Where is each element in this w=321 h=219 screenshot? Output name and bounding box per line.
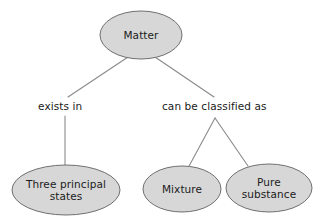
connector-matter-to-exists-in [68, 57, 128, 97]
connector-classified-to-pure-substance [215, 118, 248, 166]
edge-label-exists-in: exists in [38, 100, 82, 112]
concept-map-diagram: Matter Three principal states Mixture Pu… [0, 0, 321, 219]
connector-classified-to-mixture [188, 118, 215, 168]
node-shape-matter[interactable] [100, 11, 182, 59]
connector-group [65, 57, 248, 168]
node-shape-pure-substance[interactable] [226, 164, 312, 212]
node-shape-mixture[interactable] [143, 166, 221, 212]
node-shape-three-principal-states[interactable] [12, 165, 120, 215]
edge-label-can-be-classified-as: can be classified as [162, 100, 267, 112]
connector-matter-to-classified-as [155, 57, 214, 97]
node-shape-group [12, 11, 312, 215]
